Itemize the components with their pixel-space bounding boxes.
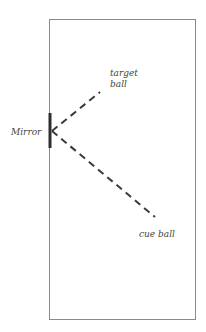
target-ball-label-line1: target <box>110 68 138 78</box>
table-frame <box>50 20 196 320</box>
target-ball-path <box>52 92 100 131</box>
target-ball-label-line2: ball <box>110 79 127 89</box>
cue-ball-label: cue ball <box>139 229 175 239</box>
cue-ball-path <box>52 131 155 217</box>
billiard-table-diagram <box>0 0 206 332</box>
mirror-label: Mirror <box>11 127 41 137</box>
